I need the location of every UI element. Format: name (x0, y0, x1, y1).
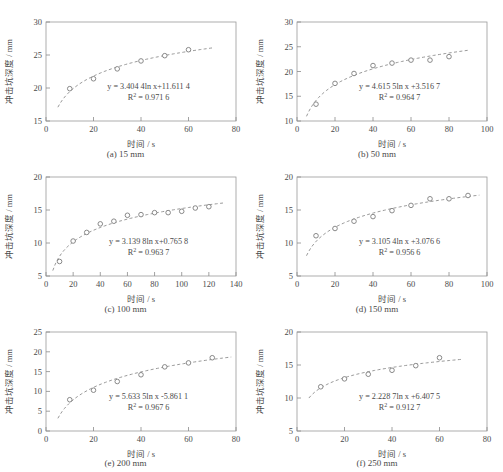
x-tick-label: 20 (89, 124, 98, 134)
r-squared-annotation: R2 = 0.912 7 (379, 402, 421, 412)
x-axis-label: 时间 / s (127, 139, 155, 149)
data-point (125, 213, 130, 218)
plot-frame (297, 177, 487, 276)
r-squared-annotation: R2 = 0.963 7 (128, 247, 170, 257)
chart-panel-f: 5101520020406080时间 / s冲击坑深度 / mmy = 2.22… (251, 318, 503, 472)
x-axis-label: 时间 / s (378, 294, 406, 304)
y-tick-label: 15 (34, 205, 43, 215)
plot-frame (46, 332, 236, 431)
x-tick-label: 100 (175, 279, 188, 289)
data-point (57, 259, 62, 264)
data-point (428, 58, 433, 63)
y-axis-label: 冲击坑深度 / mm (255, 194, 265, 259)
data-point (67, 397, 72, 402)
data-point (139, 59, 144, 64)
y-tick-label: 15 (285, 205, 294, 215)
chart-plot-d: 5101520020406080100时间 / s冲击坑深度 / mmy = 3… (251, 163, 503, 318)
x-tick-label: 0 (295, 279, 299, 289)
chart-plot-a: 15202530020406080时间 / s冲击坑深度 / mmy = 3.4… (0, 8, 251, 163)
data-point (428, 196, 433, 201)
y-tick-label: 15 (285, 360, 294, 370)
x-tick-label: 20 (340, 434, 349, 444)
y-tick-label: 10 (34, 238, 43, 248)
y-tick-label: 25 (34, 327, 43, 337)
x-tick-label: 20 (89, 434, 98, 444)
x-axis-label: 时间 / s (378, 139, 406, 149)
y-tick-label: 25 (285, 42, 294, 52)
plot-frame (297, 332, 487, 431)
x-tick-label: 0 (44, 434, 48, 444)
data-point (366, 372, 371, 377)
y-tick-label: 0 (38, 426, 42, 436)
y-axis-label: 冲击坑深度 / mm (4, 349, 14, 414)
data-point (152, 210, 157, 215)
data-point (318, 384, 323, 389)
chart-svg-b: 1015202530020406080100时间 / s冲击坑深度 / mmy … (251, 8, 501, 155)
x-tick-label: 20 (331, 124, 340, 134)
data-point (162, 53, 167, 58)
equation-annotation: y = 3.105 4ln x +3.076 6 (359, 237, 440, 246)
y-tick-label: 15 (285, 91, 294, 101)
r-squared-annotation: R2 = 0.964 7 (379, 92, 421, 102)
x-tick-label: 0 (295, 434, 299, 444)
r-squared-annotation: R2 = 0.967 6 (128, 402, 170, 412)
data-point (352, 71, 357, 76)
data-point (112, 219, 117, 224)
data-point (179, 209, 184, 214)
data-point (371, 63, 376, 68)
plot-frame (46, 22, 236, 121)
x-axis-label: 时间 / s (127, 294, 155, 304)
data-point (333, 81, 338, 86)
x-tick-label: 0 (44, 279, 48, 289)
y-tick-label: 30 (34, 17, 43, 27)
data-point (115, 67, 120, 72)
data-point (166, 210, 171, 215)
figure-page: 15202530020406080时间 / s冲击坑深度 / mmy = 3.4… (0, 0, 503, 472)
data-point (409, 58, 414, 63)
data-point (390, 368, 395, 373)
data-point (413, 363, 418, 368)
chart-panel-d: 5101520020406080100时间 / s冲击坑深度 / mmy = 3… (251, 163, 503, 318)
data-point (390, 61, 395, 66)
data-point (98, 222, 103, 227)
x-tick-label: 60 (407, 279, 416, 289)
data-point (186, 47, 191, 52)
chart-panel-a: 15202530020406080时间 / s冲击坑深度 / mmy = 3.4… (0, 8, 251, 163)
chart-panel-b: 1015202530020406080100时间 / s冲击坑深度 / mmy … (251, 8, 503, 163)
data-point (91, 76, 96, 81)
equation-annotation: y = 4.615 5ln x +3.516 7 (359, 82, 440, 91)
data-point (139, 372, 144, 377)
y-tick-label: 10 (285, 393, 294, 403)
data-point (84, 230, 89, 235)
y-tick-label: 10 (285, 116, 294, 126)
data-point (314, 233, 319, 238)
x-tick-label: 0 (44, 124, 48, 134)
y-axis-label: 冲击坑深度 / mm (255, 39, 265, 104)
chart-caption-b: (b) 50 mm (251, 149, 503, 159)
equation-annotation: y = 3.404 4ln x+11.611 4 (107, 82, 190, 91)
y-axis-label: 冲击坑深度 / mm (255, 349, 265, 414)
x-tick-label: 40 (388, 434, 397, 444)
y-tick-label: 15 (34, 367, 43, 377)
x-tick-label: 120 (202, 279, 215, 289)
r-squared-annotation: R2 = 0.971 6 (128, 92, 170, 102)
chart-plot-e: 0510152025020406080时间 / s冲击坑深度 / mmy = 5… (0, 318, 251, 472)
x-tick-label: 80 (445, 124, 454, 134)
data-point (466, 193, 471, 198)
y-tick-label: 20 (34, 172, 43, 182)
y-tick-label: 20 (285, 327, 294, 337)
x-tick-label: 40 (137, 434, 146, 444)
y-tick-label: 10 (285, 238, 294, 248)
plot-frame (46, 177, 236, 276)
y-tick-label: 25 (34, 50, 43, 60)
data-point (447, 196, 452, 201)
y-axis-label: 冲击坑深度 / mm (4, 194, 14, 259)
x-tick-label: 100 (481, 124, 494, 134)
chart-grid: 15202530020406080时间 / s冲击坑深度 / mmy = 3.4… (0, 8, 503, 472)
x-tick-label: 60 (123, 279, 132, 289)
data-point (91, 388, 96, 393)
y-tick-label: 5 (38, 271, 42, 281)
data-point (186, 361, 191, 366)
x-tick-label: 140 (230, 279, 243, 289)
y-tick-label: 15 (34, 116, 43, 126)
